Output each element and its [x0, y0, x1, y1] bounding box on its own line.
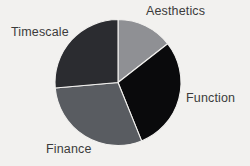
- pie-label-timescale: Timescale: [11, 26, 69, 39]
- pie-label-finance: Finance: [46, 143, 92, 156]
- pie-slice-group: [55, 20, 181, 146]
- pie-chart-figure: Aesthetics Timescale Function Finance: [0, 0, 250, 166]
- pie-label-function: Function: [186, 92, 235, 105]
- pie-label-aesthetics: Aesthetics: [146, 5, 205, 18]
